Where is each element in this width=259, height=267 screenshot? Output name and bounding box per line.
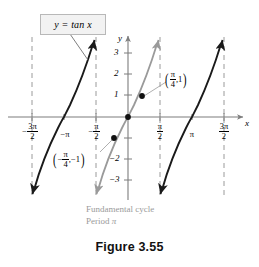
point-y-value: −1 [71,154,80,164]
dot-neg-pi-over-4 [111,135,117,141]
tan-branch-right-arrow-up [221,40,223,47]
x-tick-label-neg-pi: −π [53,124,77,142]
x-tick-label-pi: π [184,124,200,142]
curve-label-text: y = tan x [54,19,92,30]
note-period-symbol: π [112,216,117,226]
x-tick-label-neg-pi-2: −π2 [79,121,109,140]
tan-branch-fundamental-arrow-down [97,188,99,194]
x-tick-den: 2 [27,131,38,141]
y-tick-label-3: 3 [114,47,119,57]
point-label-neg-pi-over-4: (−π4, −1) [52,150,86,168]
tan-branch-fundamental-arrow-up [157,40,159,47]
y-tick-label-2: 2 [114,68,119,78]
x-tick-label-neg-3pi-2: −3π2 [13,121,47,140]
note-period-text: Period [86,216,112,226]
x-tick-label-pi-2: π2 [150,121,170,140]
dot-origin [125,114,131,120]
x-tick-den: 2 [157,131,163,141]
tan-branch-left-arrow-down [33,188,35,194]
open-paren: ( [165,71,169,88]
x-tick-num: π [93,122,99,131]
tan-branch-left-arrow-up [93,40,95,47]
x-tick-den: 2 [93,131,99,141]
x-tick-num: π [190,129,194,139]
y-tick-label-neg3: −3 [109,174,120,184]
y-axis-label: y [118,33,122,43]
close-paren: ) [81,151,85,168]
x-tick-num: π [157,122,163,131]
y-tick-label-1: 1 [114,89,119,99]
x-tick-num: π [65,129,69,139]
x-tick-label-3pi-2: 3π2 [212,121,236,140]
x-axis-label: x [245,118,249,128]
note-fundamental-cycle: Fundamental cycle [86,203,154,215]
dot-pi-over-4 [139,93,145,99]
y-tick-label-neg2: −2 [109,153,120,163]
figure-notes: Fundamental cycle Period π [86,203,154,227]
curve-label-box: y = tan x [40,14,106,35]
x-tick-num: 3π [219,122,230,131]
point-label-pi-over-4: (π4, 1) [164,70,188,88]
tan-branch-right-arrow-down [161,188,163,194]
x-tick-num: 3π [27,122,38,131]
x-tick-den: 2 [219,131,230,141]
figure-caption: Figure 3.55 [0,240,259,254]
point-y-value: 1 [178,74,182,84]
open-paren: ( [53,151,57,168]
close-paren: ) [183,71,187,88]
note-period: Period π [86,215,154,227]
callout-leader-point-neg [100,140,112,152]
callout-leader-point [144,82,166,96]
callout-leader-tan [70,34,88,60]
figure-container: y = tan x x y 3 2 1 −2 −3 −3π2 −π −π2 π2… [0,0,259,267]
